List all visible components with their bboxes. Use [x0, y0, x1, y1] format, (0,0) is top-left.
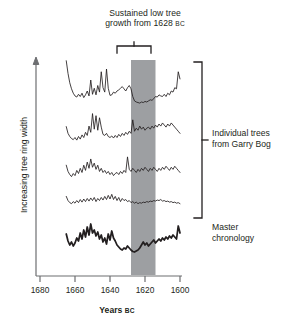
legend-master-line1: Master [212, 222, 238, 232]
trace-tree-1 [66, 61, 180, 103]
legend-master-chronology: Master chronology [212, 222, 290, 243]
trace-tree-4 [66, 194, 180, 203]
trace-master-chronology [66, 224, 180, 252]
annotation-title-era: BC [175, 20, 185, 27]
annotation-title-line2: growth from 1628 [105, 18, 175, 28]
x-axis-title-main: Years [99, 305, 124, 315]
legend-individual-trees: Individual trees from Garry Bog [212, 128, 290, 149]
legend-master-line2: chronology [212, 233, 254, 243]
y-axis [33, 57, 39, 276]
trace-tree-3 [66, 157, 180, 177]
trace-group [66, 61, 180, 252]
trace-tree-2 [66, 114, 180, 141]
annotation-title-line1: Sustained low tree [109, 8, 181, 18]
y-axis-title: Increasing tree ring width [19, 85, 29, 245]
chart-canvas [0, 0, 290, 327]
annotation-title: Sustained low tree growth from 1628 BC [86, 8, 204, 30]
x-axis-title-era: BC [125, 307, 135, 314]
individual-trees-bracket-icon [194, 62, 208, 218]
x-tick-label-1660: 1660 [60, 285, 90, 295]
event-bracket-icon [117, 42, 151, 53]
x-tick-label-1600: 1600 [165, 285, 195, 295]
x-tick-label-1640: 1640 [95, 285, 125, 295]
tree-ring-chronology-figure: Sustained low tree growth from 1628 BC I… [0, 0, 290, 327]
x-tick-label-1680: 1680 [25, 285, 55, 295]
x-tick-label-1620: 1620 [130, 285, 160, 295]
x-axis-title: Years BC [62, 305, 172, 315]
legend-trees-line2: from Garry Bog [212, 139, 271, 149]
legend-trees-line1: Individual trees [212, 128, 270, 138]
x-axis [36, 276, 182, 282]
